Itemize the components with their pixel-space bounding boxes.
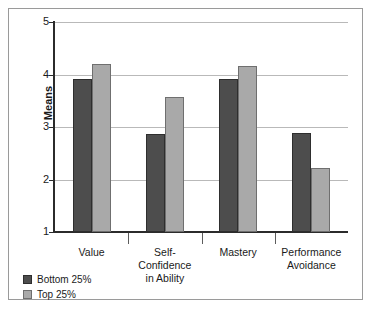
category-label-line: in Ability <box>128 272 201 285</box>
y-axis-tick-label: 1 <box>33 225 49 237</box>
category-label-line: Performance <box>275 246 348 259</box>
legend-color-swatch <box>23 290 32 299</box>
bar <box>219 79 238 232</box>
y-axis-tick-mark <box>49 180 54 181</box>
category-label-line: Value <box>55 246 128 259</box>
chart-legend: Bottom 25%Top 25% <box>23 273 91 303</box>
bar <box>73 79 92 232</box>
y-axis-tick-labels: 54321 <box>31 0 49 250</box>
y-axis-tick-mark <box>49 22 54 23</box>
chart-figure: Means 54321 Bottom 25%Top 25% ValueSelf-… <box>0 0 374 318</box>
y-axis-tick-mark <box>49 75 54 76</box>
category-label-line: Mastery <box>202 246 275 259</box>
category-separator <box>275 233 276 244</box>
category-label-line: Avoidance <box>275 259 348 272</box>
bar <box>92 64 111 232</box>
x-axis-category-label: Value <box>55 246 128 259</box>
category-label-line: Self-Confidence <box>128 246 201 272</box>
legend-item: Top 25% <box>23 288 91 301</box>
legend-item-label: Bottom 25% <box>37 274 91 285</box>
legend-item-label: Top 25% <box>37 289 76 300</box>
category-separator <box>128 233 129 244</box>
y-axis-tick-label: 4 <box>33 68 49 80</box>
y-axis-tick-label: 2 <box>33 173 49 185</box>
gridline <box>55 22 348 23</box>
category-separator <box>202 233 203 244</box>
y-axis-tick-mark <box>49 232 54 233</box>
y-axis-tick-mark <box>49 127 54 128</box>
bar <box>165 97 184 232</box>
y-axis-tick-label: 3 <box>33 120 49 132</box>
legend-item: Bottom 25% <box>23 273 91 286</box>
bar <box>311 168 330 232</box>
x-axis-category-label: PerformanceAvoidance <box>275 246 348 272</box>
x-axis-category-label: Self-Confidencein Ability <box>128 246 201 285</box>
x-axis-category-label: Mastery <box>202 246 275 259</box>
legend-color-swatch <box>23 275 32 284</box>
bar <box>292 133 311 232</box>
y-axis-tick-label: 5 <box>33 15 49 27</box>
bar <box>146 134 165 232</box>
bar <box>238 66 257 232</box>
